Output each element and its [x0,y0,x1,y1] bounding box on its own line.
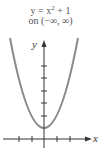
y-axis-arrow-icon [42,40,47,47]
parabola-graph: y x [0,0,101,149]
x-axis-arrow-icon [85,137,92,142]
x-axis-label: x [92,132,98,144]
y-axis-label: y [31,38,37,50]
